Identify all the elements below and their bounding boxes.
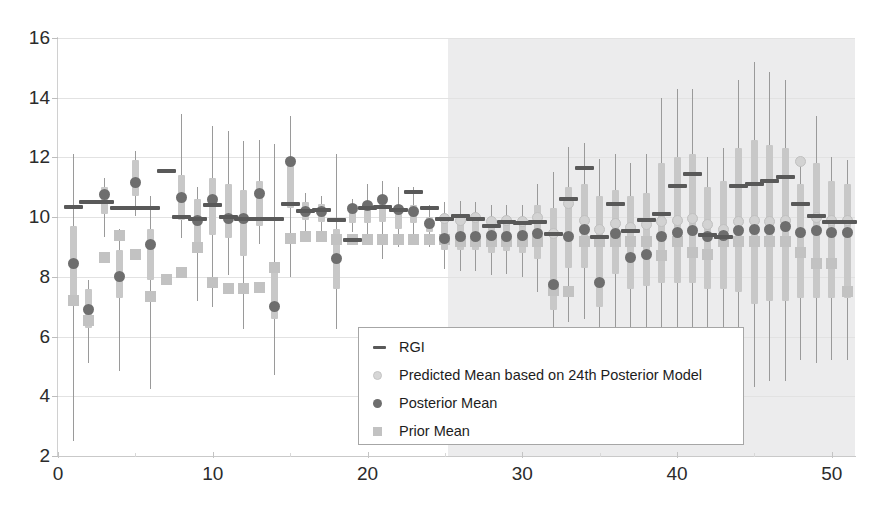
prior-mean-marker [842,286,853,297]
prior-mean-marker [780,236,791,247]
posterior-mean-marker [517,230,528,241]
x-tick-mark [445,453,446,457]
legend-label: Predicted Mean based on 24th Posterior M… [399,367,702,383]
rgi-marker [838,220,857,224]
prior-mean-marker [99,252,110,263]
prior-mean-marker [331,234,342,245]
x-tick-label: 50 [802,464,862,483]
x-tick-mark [754,453,755,457]
y-tick-label: 2 [6,446,50,465]
prior-mean-marker [223,283,234,294]
prior-mean-marker [579,236,590,247]
posterior-mean-marker [842,227,853,238]
posterior-mean-marker [625,252,636,263]
prior-mean-marker [238,283,249,294]
rgi-marker [141,206,160,210]
prior-mean-marker [300,231,311,242]
legend-item-rgi: RGI [373,336,425,358]
rgi-marker [466,217,485,221]
y-tick-label: 10 [6,207,50,226]
prior-mean-marker [702,249,713,260]
y-tick-label: 16 [6,28,50,47]
predicted-mean-marker [610,218,621,229]
rgi-marker [188,217,207,221]
x-axis-line [58,456,856,457]
rgi-marker [575,166,594,170]
rgi-marker [420,206,439,210]
rgi-marker [203,203,222,207]
square-icon [373,427,399,436]
rgi-marker [683,172,702,176]
x-tick-mark [135,453,136,457]
rgi-marker [343,238,362,242]
prior-mean-marker [408,234,419,245]
dash-icon [373,346,399,349]
x-tick-label: 10 [183,464,243,483]
prior-mean-marker [285,233,296,244]
rgi-marker [312,208,331,212]
legend-label: Prior Mean [399,423,470,439]
x-tick-mark [522,452,523,458]
y-tick-label: 4 [6,386,50,405]
chart-container: 24681012141601020304050 RGI Predicted Me… [0,0,890,514]
x-tick-mark [832,452,833,458]
x-tick-mark [368,452,369,458]
gridline [58,98,855,99]
y-tick-mark [52,157,58,158]
posterior-mean-marker [641,249,652,260]
rgi-marker [668,184,687,188]
prior-mean-marker [316,231,327,242]
rgi-marker [528,220,547,224]
prior-mean-marker [176,267,187,278]
rgi-marker [281,202,300,206]
posterior-mean-marker [486,230,497,241]
x-tick-label: 40 [647,464,707,483]
x-tick-label: 0 [28,464,88,483]
predicted-mean-marker [594,224,605,235]
rgi-marker [637,218,656,222]
prior-mean-marker [424,234,435,245]
rgi-marker [559,197,578,201]
x-tick-mark [600,453,601,457]
posterior-mean-marker [455,231,466,242]
prior-mean-marker [733,236,744,247]
posterior-mean-marker [68,258,79,269]
prior-mean-marker [625,236,636,247]
y-tick-mark [52,217,58,218]
x-tick-label: 30 [492,464,552,483]
rgi-marker [590,235,609,239]
whisker-line [274,144,275,375]
x-tick-mark [213,452,214,458]
rgi-marker [389,208,408,212]
prior-mean-marker [161,274,172,285]
rgi-marker [95,200,114,204]
y-tick-label: 12 [6,147,50,166]
posterior-mean-marker [780,221,791,232]
prior-mean-marker [749,236,760,247]
posterior-mean-marker [347,203,358,214]
prior-mean-marker [377,234,388,245]
y-tick-mark [52,98,58,99]
posterior-mean-marker [579,224,590,235]
posterior-mean-marker [439,233,450,244]
prior-mean-marker [393,234,404,245]
posterior-mean-marker [610,228,621,239]
y-tick-label: 8 [6,267,50,286]
posterior-mean-marker [811,225,822,236]
x-tick-mark [677,452,678,458]
posterior-mean-marker [826,227,837,238]
rgi-marker [404,190,423,194]
prior-mean-marker [83,315,94,326]
posterior-mean-marker [254,188,265,199]
prior-mean-marker [656,250,667,261]
circle-dark-icon [373,399,399,408]
prior-mean-marker [795,247,806,258]
prior-mean-marker [687,247,698,258]
prior-mean-marker [362,234,373,245]
prior-mean-marker [641,236,652,247]
chart-legend: RGI Predicted Mean based on 24th Posteri… [358,327,744,445]
prior-mean-marker [269,262,280,273]
y-tick-label: 14 [6,88,50,107]
posterior-mean-marker [687,225,698,236]
posterior-mean-marker [548,279,559,290]
